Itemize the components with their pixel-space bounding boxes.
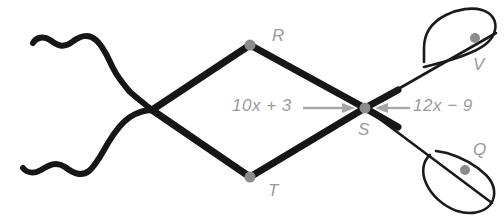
wavy-line-lower-left [23, 110, 152, 174]
arrow-left-to-S [303, 103, 355, 113]
vertex-dot-Q [460, 165, 470, 175]
measure-label-right: 12x − 9 [413, 96, 473, 116]
vertex-label-T: T [268, 181, 279, 201]
vertex-dot-V [470, 33, 480, 43]
vertex-label-R: R [272, 26, 285, 46]
measure-label-left: 10x + 3 [232, 96, 292, 116]
diagonal-upper-left-to-lower-right [152, 110, 250, 177]
vertex-dot-R [245, 40, 256, 51]
segment-T-to-S [250, 108, 365, 177]
vertex-dot-T [245, 172, 256, 183]
thick-line-group [23, 36, 398, 177]
vertex-label-Q: Q [473, 140, 487, 160]
vertex-label-S: S [358, 120, 370, 140]
vertex-label-V: V [473, 55, 485, 75]
wavy-line-upper-left [33, 36, 152, 110]
geometry-figure: R T S V Q 10x + 3 12x − 9 [0, 0, 504, 222]
vertex-dot-S [360, 103, 371, 114]
arrow-right-to-S [375, 103, 410, 113]
